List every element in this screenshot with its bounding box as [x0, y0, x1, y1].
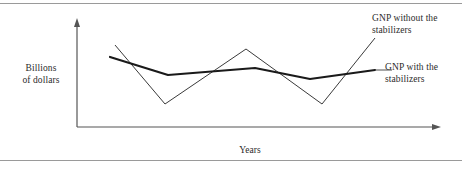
y-axis-label: Billions of dollars [8, 63, 74, 86]
series-label-gnp-without-stabilizers: GNP without the stabilizers [372, 13, 462, 36]
series-line-gnp-with-stabilizers [110, 57, 375, 79]
y-axis-arrow-icon [74, 18, 80, 27]
x-axis-label: Years [210, 145, 290, 157]
x-axis-arrow-icon [432, 124, 441, 130]
gnp-stabilizers-figure: Billions of dollars Years GNP without th… [0, 0, 462, 169]
series-label-gnp-with-stabilizers: GNP with the stabilizers [385, 62, 462, 85]
